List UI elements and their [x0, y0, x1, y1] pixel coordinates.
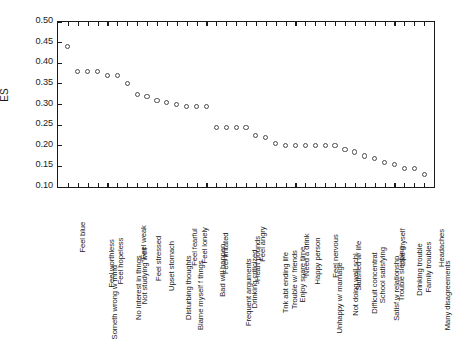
x-axis-label: Need a drink: [306, 191, 315, 233]
y-tick-mark: [58, 83, 62, 84]
x-tick-mark-top: [335, 22, 336, 26]
y-tick-label: 0.35: [36, 77, 53, 87]
x-axis-label-text: Happy person: [313, 238, 322, 285]
x-axis-label-text: Feel nervous: [331, 234, 340, 277]
x-tick-mark-top: [127, 22, 128, 26]
x-tick-mark: [286, 183, 287, 187]
x-tick-mark-top: [68, 22, 69, 26]
x-tick-mark-top: [404, 22, 405, 26]
x-tick-mark-top: [385, 22, 386, 26]
x-tick-mark: [107, 183, 108, 187]
x-axis-label: Headaches: [442, 191, 451, 229]
data-point: [154, 98, 159, 103]
data-point: [75, 69, 80, 74]
x-tick-mark: [266, 183, 267, 187]
x-tick-mark: [226, 183, 227, 187]
x-axis-label: School satisfying: [382, 191, 391, 247]
x-axis-label: Upset stomach: [171, 191, 180, 241]
x-tick-mark-top: [325, 22, 326, 26]
x-axis-label: Feel fearful: [194, 191, 203, 228]
x-tick-mark: [78, 183, 79, 187]
x-axis-label: Feel stressed: [159, 191, 168, 236]
x-tick-mark: [305, 183, 306, 187]
x-tick-mark-top: [375, 22, 376, 26]
data-point: [303, 143, 308, 148]
x-tick-mark-top: [256, 22, 257, 26]
plot-area: 0.500.450.400.350.300.250.200.150.10: [57, 21, 435, 188]
x-axis-label-text: Feel worthless: [106, 239, 115, 287]
data-point: [204, 104, 209, 109]
data-point: [273, 141, 278, 146]
data-point: [422, 172, 427, 177]
y-tick-label: 0.25: [36, 118, 53, 128]
x-axis-label-text: Feel hopeless: [115, 238, 124, 285]
data-point: [224, 125, 229, 130]
y-tick-mark: [58, 166, 62, 167]
x-axis-label: Feel worthless: [111, 191, 120, 239]
x-tick-mark-top: [117, 22, 118, 26]
x-tick-mark: [236, 183, 237, 187]
x-axis-label-text: Feel stressed: [154, 236, 163, 281]
x-axis-label-text: Tnk abt ending life: [281, 252, 290, 313]
x-tick-mark: [216, 183, 217, 187]
data-point: [234, 125, 239, 130]
y-axis-label: ES: [0, 88, 10, 101]
x-tick-mark: [365, 183, 366, 187]
x-tick-mark: [68, 183, 69, 187]
x-tick-mark-top: [226, 22, 227, 26]
x-tick-mark-top: [98, 22, 99, 26]
data-point: [214, 125, 219, 130]
x-axis-label: Like myself: [402, 191, 411, 228]
x-axis-label: Feel weak: [143, 191, 152, 225]
x-axis-label: Feel lonely: [204, 191, 213, 227]
x-axis-label-text: Feel angry: [258, 226, 267, 261]
x-axis-label: Drinking trouble: [420, 191, 429, 243]
x-tick-mark: [167, 183, 168, 187]
x-tick-mark: [394, 183, 395, 187]
data-point: [313, 143, 318, 148]
x-axis-label: Feel hopeless: [120, 191, 129, 238]
data-point: [263, 135, 268, 140]
y-tick-label: 0.40: [36, 56, 53, 66]
x-tick-mark-top: [177, 22, 178, 26]
x-tick-mark-top: [295, 22, 296, 26]
x-tick-mark-top: [197, 22, 198, 26]
x-tick-mark: [315, 183, 316, 187]
x-tick-mark-top: [414, 22, 415, 26]
x-tick-mark: [375, 183, 376, 187]
x-tick-mark: [295, 183, 296, 187]
x-axis-label-text: Blame myself f thngs: [196, 260, 205, 329]
x-axis-label-text: Like myself: [398, 228, 407, 265]
x-axis-label: Feel nervous: [336, 191, 345, 234]
x-tick-mark-top: [147, 22, 148, 26]
y-tick-mark: [58, 145, 62, 146]
x-tick-mark-top: [107, 22, 108, 26]
data-point: [382, 160, 387, 165]
x-axis-label-text: Feel blue: [78, 222, 87, 253]
data-point: [105, 73, 110, 78]
x-tick-mark-top: [365, 22, 366, 26]
data-point: [115, 73, 120, 78]
x-tick-mark: [157, 183, 158, 187]
x-tick-mark: [424, 183, 425, 187]
x-tick-mark: [385, 183, 386, 187]
data-point: [85, 69, 90, 74]
x-tick-mark: [177, 183, 178, 187]
data-point: [164, 100, 169, 105]
x-tick-mark: [276, 183, 277, 187]
x-axis-label-text: Feel irritated: [222, 233, 231, 275]
y-tick-mark: [58, 125, 62, 126]
x-axis-label-text: Many disagreements: [444, 261, 453, 331]
data-point: [194, 104, 199, 109]
x-axis-label: Feel irritated: [226, 191, 235, 233]
x-tick-mark: [137, 183, 138, 187]
x-tick-mark-top: [355, 22, 356, 26]
x-tick-mark: [187, 183, 188, 187]
x-tick-mark-top: [137, 22, 138, 26]
data-point: [372, 156, 377, 161]
x-tick-mark: [414, 183, 415, 187]
x-axis-label-text: Need a drink: [301, 233, 310, 275]
x-axis-label-text: Feel lonely: [199, 227, 208, 263]
data-point: [392, 162, 397, 167]
x-axis-label-text: Upset stomach: [167, 241, 176, 291]
